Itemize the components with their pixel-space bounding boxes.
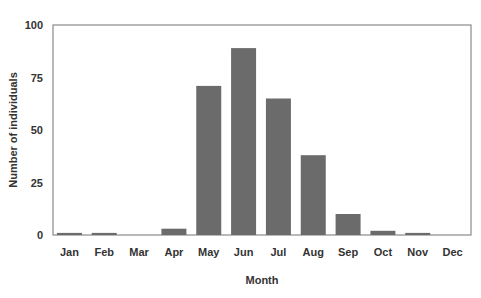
x-tick-label: Jan (60, 246, 79, 258)
plot-border (53, 25, 471, 235)
bar-apr (161, 229, 186, 235)
x-tick-label: May (198, 246, 220, 258)
y-tick-label: 25 (31, 177, 43, 189)
x-tick-label: Aug (303, 246, 324, 258)
bar-aug (301, 155, 326, 235)
y-tick-label: 0 (37, 229, 43, 241)
bar-jun (231, 48, 256, 235)
bar-jul (266, 99, 291, 236)
bar-jan (57, 233, 82, 235)
x-axis-title: Month (246, 274, 279, 286)
y-tick-label: 75 (31, 72, 43, 84)
x-tick-label: Apr (164, 246, 184, 258)
bar-may (196, 86, 221, 235)
y-tick-label: 100 (25, 19, 43, 31)
y-axis-title: Number of individuals (7, 72, 19, 188)
x-tick-label: Feb (94, 246, 114, 258)
x-axis-ticks: JanFebMarAprMayJunJulAugSepOctNovDec (60, 246, 463, 258)
bar-feb (92, 233, 117, 235)
x-tick-label: Nov (407, 246, 429, 258)
bar-oct (370, 231, 395, 235)
bar-sep (336, 214, 361, 235)
y-axis-ticks: 0255075100 (25, 19, 43, 241)
x-tick-label: Sep (338, 246, 358, 258)
bar-chart: 0255075100 JanFebMarAprMayJunJulAugSepOc… (0, 0, 481, 298)
x-tick-label: Jun (234, 246, 254, 258)
bar-nov (405, 233, 430, 235)
x-tick-label: Oct (374, 246, 393, 258)
x-tick-label: Mar (129, 246, 149, 258)
bars (57, 48, 430, 235)
x-tick-label: Jul (270, 246, 286, 258)
plot-area (53, 25, 471, 235)
x-tick-label: Dec (442, 246, 462, 258)
y-tick-label: 50 (31, 124, 43, 136)
